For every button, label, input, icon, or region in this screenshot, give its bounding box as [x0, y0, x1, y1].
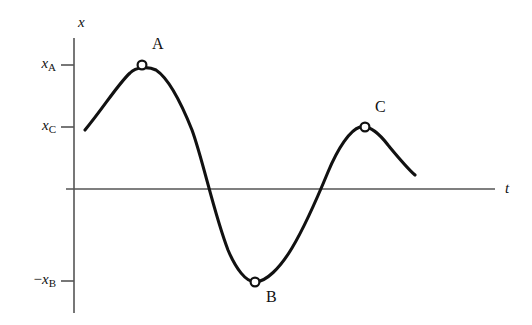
x-axis-label: t	[505, 181, 509, 196]
point-label-a: A	[152, 36, 164, 52]
y-tick-variable-xb: x	[42, 271, 49, 287]
y-tick-sign-xb: −	[34, 271, 42, 287]
y-axis-label: x	[78, 15, 85, 30]
plot-svg	[0, 0, 532, 325]
data-point-marker-c[interactable]	[361, 123, 370, 132]
y-tick-subscript-xa: A	[48, 61, 56, 73]
data-point-marker-b[interactable]	[251, 278, 260, 287]
data-point-marker-a[interactable]	[138, 61, 147, 70]
figure-container: x t xA xC −xB A B C	[0, 0, 532, 325]
y-tick-label-xa: xA	[0, 56, 56, 73]
y-tick-label-xc: xC	[0, 118, 56, 135]
point-label-b: B	[266, 289, 277, 305]
y-tick-variable-xc: x	[42, 117, 49, 133]
y-tick-label-xb: −xB	[0, 272, 56, 289]
y-tick-subscript-xc: C	[49, 123, 56, 135]
point-label-c: C	[375, 99, 386, 115]
displacement-curve	[85, 68, 415, 282]
y-tick-subscript-xb: B	[49, 277, 56, 289]
